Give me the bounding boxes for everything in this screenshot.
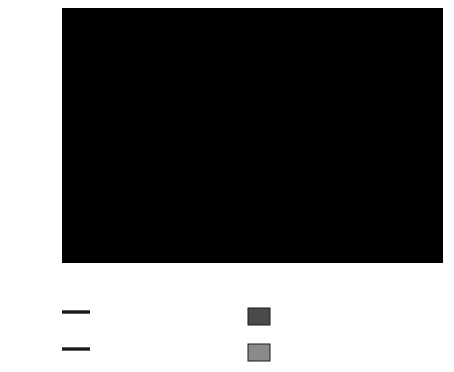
farm-vs-consumer-price-chart <box>0 0 454 372</box>
legend-band-entry-1 <box>248 344 270 361</box>
legend-band-entry-0 <box>248 308 270 325</box>
box-swatch-icon-red <box>248 344 270 361</box>
chart-container <box>0 0 454 372</box>
box-swatch-icon-black <box>248 308 270 325</box>
plot-background <box>62 8 443 263</box>
